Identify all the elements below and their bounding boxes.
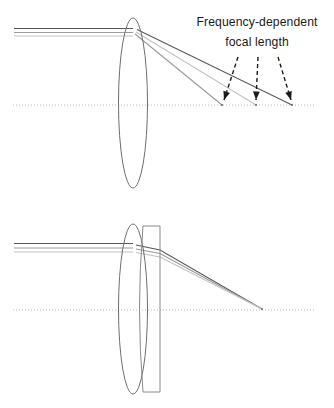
callout-arrow-mid	[253, 57, 260, 100]
converging-ray-light	[136, 253, 262, 310]
incoming-ray-bundle	[14, 244, 133, 253]
biconvex-lens	[119, 224, 148, 394]
biconvex-lens	[119, 18, 148, 188]
panel-achromat	[13, 224, 316, 394]
focal-point-group	[261, 308, 263, 310]
optical-diagram-figure: Frequency-dependent focal length	[0, 0, 334, 408]
callout-arrow-mid-head	[253, 91, 260, 100]
optics-canvas: Frequency-dependent focal length	[0, 0, 334, 408]
focal-point-far	[291, 104, 293, 106]
callout-arrow-near	[223, 57, 238, 100]
callout-arrow-near-head	[223, 91, 229, 100]
focal-point-mid	[255, 104, 257, 106]
refracted-ray-bundle	[136, 245, 262, 309]
meniscus-corrector-element	[140, 226, 161, 392]
common-focal-point	[261, 308, 263, 310]
focal-point-near	[221, 104, 223, 106]
panel-singlet: Frequency-dependent focal length	[13, 15, 318, 188]
focus-near-ray	[135, 34, 222, 105]
incoming-ray-bundle	[14, 29, 133, 37]
callout-arrow-far	[278, 57, 292, 100]
callout-arrow-group	[223, 57, 291, 100]
converging-ray-medium	[136, 249, 262, 309]
callout-arrow-far-head	[285, 91, 292, 100]
annotation-line-1: Frequency-dependent	[196, 15, 318, 29]
annotation-line-2: focal length	[225, 35, 289, 49]
